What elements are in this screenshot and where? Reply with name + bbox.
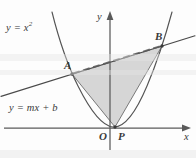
parabola-equation-label: y = x2: [6, 21, 32, 33]
point-b-marker: [160, 44, 163, 47]
line-equation-label: y = mx + b: [9, 103, 58, 114]
shaded-triangle-apb: [72, 46, 162, 127]
point-p-label: P: [118, 131, 125, 142]
point-a-label: A: [64, 60, 71, 71]
origin-label: O: [99, 131, 107, 142]
x-axis-label: x: [184, 132, 189, 143]
point-a-marker: [70, 72, 73, 75]
math-figure: y = x2 y = mx + b A B O P y x: [0, 0, 196, 158]
point-b-label: B: [155, 31, 162, 42]
point-p-marker: [113, 125, 116, 128]
parabola-equation-text: y = x: [6, 22, 29, 33]
y-axis-label: y: [97, 12, 102, 23]
parabola-exponent: 2: [29, 20, 33, 28]
y-axis-arrow-icon: [107, 11, 114, 20]
